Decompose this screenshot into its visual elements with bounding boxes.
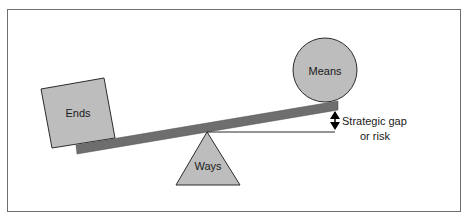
double-arrow-icon <box>330 111 340 130</box>
seesaw-diagram: Ends Means Ways Strategic gap or risk <box>0 0 467 218</box>
ways-label: Ways <box>194 160 222 172</box>
means-label: Means <box>308 65 342 77</box>
strategic-gap-label-line2: or risk <box>360 130 390 142</box>
strategic-gap-label-line1: Strategic gap <box>342 115 407 127</box>
ways-fulcrum: Ways <box>176 132 240 185</box>
ways-triangle-shape <box>176 132 240 185</box>
means-ball: Means <box>293 38 357 102</box>
ends-label: Ends <box>65 107 91 119</box>
ends-block: Ends <box>41 78 115 148</box>
